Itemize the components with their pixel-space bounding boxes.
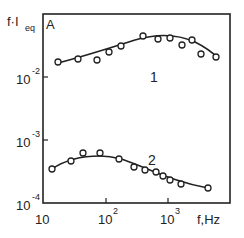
svg-text:10: 10 (16, 72, 30, 87)
curve-1-label: 1 (150, 69, 158, 85)
svg-text:-3: -3 (32, 129, 40, 139)
y-axis-label: f·I eq A (7, 14, 55, 33)
curve-2-label: 2 (148, 152, 156, 168)
svg-text:10: 10 (16, 198, 30, 213)
axis-ticks (43, 77, 168, 203)
plot-frame (43, 14, 230, 203)
curve-2-fit (52, 156, 208, 188)
curve-1-points (55, 33, 219, 65)
svg-text:3: 3 (175, 206, 180, 216)
svg-text:eq: eq (25, 23, 35, 33)
curve-2-points (49, 150, 211, 191)
svg-text:10: 10 (35, 212, 49, 227)
chart: f·I eq A 10 -2 10 -3 10 -4 10 10 2 10 3 … (0, 0, 244, 238)
svg-text:10: 10 (160, 212, 174, 227)
svg-text:-2: -2 (32, 66, 40, 76)
y-tick-labels: 10 -2 10 -3 10 -4 (16, 66, 40, 213)
svg-text:A: A (46, 17, 55, 32)
x-tick-labels: 10 10 2 10 3 f,Hz (35, 206, 220, 227)
svg-text:2: 2 (113, 206, 118, 216)
svg-text:f·I: f·I (7, 14, 19, 29)
svg-text:f,Hz: f,Hz (197, 212, 220, 227)
svg-text:10: 10 (16, 135, 30, 150)
svg-text:-4: -4 (32, 192, 40, 202)
svg-text:10: 10 (98, 212, 112, 227)
